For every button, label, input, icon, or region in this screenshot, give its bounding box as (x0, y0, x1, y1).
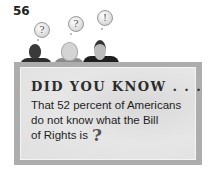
exclamation-mark-icon: ! (97, 10, 113, 26)
callout-fact: That 52 percent of Americans do not know… (31, 98, 191, 143)
page-number: 56 (13, 4, 30, 18)
fact-line: do not know what the Bill (31, 113, 191, 128)
callout-heading: DID YOU KNOW . . . (31, 79, 202, 94)
fact-line: of Rights is ? (31, 128, 191, 143)
bubble-dot (70, 33, 72, 35)
fact-line-text: of Rights is (31, 129, 88, 141)
question-mark-icon: ? (34, 22, 50, 38)
callout-panel: DID YOU KNOW . . . That 52 percent of Am… (20, 67, 196, 160)
did-you-know-callout: DID YOU KNOW . . . That 52 percent of Am… (14, 62, 202, 165)
bubble-dot (101, 28, 103, 30)
question-mark-icon: ? (68, 16, 84, 32)
bubble-dot (37, 39, 39, 41)
fact-line: That 52 percent of Americans (31, 98, 191, 113)
question-mark-icon: ? (92, 125, 102, 145)
